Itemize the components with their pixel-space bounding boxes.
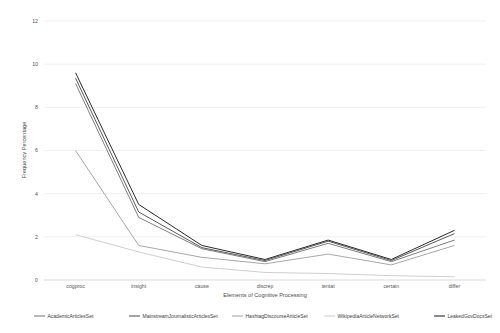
legend-label-AcademicArticlesSet: AcademicArticlesSet bbox=[48, 313, 94, 319]
series-line-MainstreamJournalisticArticlesSet bbox=[76, 78, 455, 260]
gridlines bbox=[44, 21, 486, 280]
y-tick-label: 10 bbox=[32, 61, 38, 67]
y-tick-label: 12 bbox=[32, 18, 38, 24]
y-axis-title: Frequency Percentage bbox=[21, 122, 27, 179]
legend-label-HashtagDiscourseArticleSet: HashtagDiscourseArticleSet bbox=[246, 313, 309, 319]
y-tick-label: 6 bbox=[35, 147, 38, 153]
x-tick-label-certain: certain bbox=[383, 283, 399, 289]
chart-canvas: 024681012 cogprocinsightcausediscreptent… bbox=[0, 0, 500, 333]
legend-label-LeakedGovDocsSet: LeakedGovDocsSet bbox=[448, 313, 493, 319]
x-tick-label-insight: insight bbox=[131, 283, 147, 289]
x-tick-label-tentat: tentat bbox=[322, 283, 336, 289]
data-series-lines bbox=[76, 73, 455, 277]
x-tick-label-differ: differ bbox=[449, 283, 461, 289]
x-axis-title: Elements of Cognitive Processing bbox=[223, 292, 307, 298]
series-line-AcademicArticlesSet bbox=[76, 84, 455, 262]
y-tick-label: 4 bbox=[35, 191, 38, 197]
series-line-LeakedGovDocsSet bbox=[76, 73, 455, 260]
x-tick-label-discrep: discrep bbox=[257, 283, 274, 289]
legend-label-MainstreamJournalisticArticlesSet: MainstreamJournalisticArticlesSet bbox=[143, 313, 219, 319]
series-line-WikipediaArticleNetworkSet bbox=[76, 235, 455, 277]
y-tick-label: 0 bbox=[35, 277, 38, 283]
series-line-HashtagDiscourseArticleSet bbox=[76, 151, 455, 265]
x-axis-tick-labels: cogprocinsightcausediscreptentatcertaind… bbox=[66, 283, 460, 289]
x-tick-label-cause: cause bbox=[195, 283, 209, 289]
y-axis-tick-labels: 024681012 bbox=[32, 18, 38, 283]
x-tick-label-cogproc: cogproc bbox=[66, 283, 85, 289]
chart-legend: AcademicArticlesSetMainstreamJournalisti… bbox=[34, 313, 493, 319]
legend-label-WikipediaArticleNetworkSet: WikipediaArticleNetworkSet bbox=[338, 313, 400, 319]
y-tick-label: 2 bbox=[35, 234, 38, 240]
y-tick-label: 8 bbox=[35, 104, 38, 110]
line-chart-figure: 024681012 cogprocinsightcausediscreptent… bbox=[0, 0, 500, 333]
